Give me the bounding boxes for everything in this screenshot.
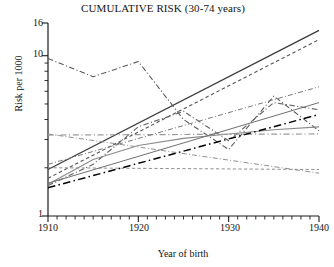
series-2-dashed-rising-steep [48,40,319,179]
y-axis-ticks [42,23,48,216]
series-7-dashed-gray-flat-low [48,168,319,170]
series-6-dashdot-gray-flat [48,134,319,135]
series-10-gray-rising-mid [48,103,319,184]
data-series-group [48,30,319,187]
series-9-gray-dashdot-descending [48,134,319,173]
series-3-dashdot-zigzag-high [48,59,319,150]
axis-lines [48,23,319,216]
x-axis-ticks [48,216,319,222]
series-8-black-dashdot-rising [48,114,319,187]
